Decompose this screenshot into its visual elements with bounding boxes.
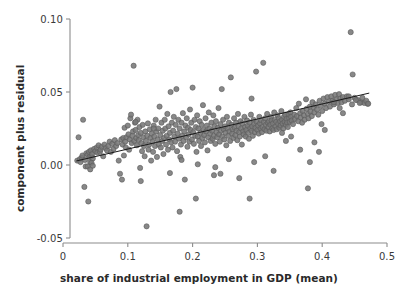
scatter-point <box>117 171 122 176</box>
scatter-point <box>138 178 143 183</box>
scatter-point <box>316 149 321 154</box>
scatter-point <box>249 96 254 101</box>
scatter-point <box>289 134 294 139</box>
scatter-point <box>180 111 185 116</box>
scatter-point <box>119 177 124 182</box>
scatter-point <box>290 122 295 127</box>
scatter-point <box>128 112 133 117</box>
scatter-point <box>298 147 303 152</box>
scatter-point <box>133 119 138 124</box>
scatter-point <box>235 111 240 116</box>
scatter-point <box>224 143 229 148</box>
scatter-point <box>187 107 192 112</box>
scatter-point <box>263 154 268 159</box>
scatter-point <box>174 149 179 154</box>
scatter-point <box>194 149 199 154</box>
scatter-point <box>237 176 242 181</box>
scatter-point <box>179 157 184 162</box>
scatter-point <box>239 142 244 147</box>
scatter-point <box>142 154 147 159</box>
scatter-point <box>248 112 253 117</box>
scatter-point <box>158 145 163 150</box>
scatter-point <box>219 86 224 91</box>
scatter-point <box>203 116 208 121</box>
scatter-point <box>211 113 216 118</box>
scatter-point <box>144 224 149 229</box>
scatter-point <box>121 153 126 158</box>
scatter-point <box>254 69 259 74</box>
scatter-point <box>177 126 182 131</box>
scatter-point <box>247 196 252 201</box>
scatter-point <box>205 148 210 153</box>
scatter-point <box>157 104 162 109</box>
scatter-point <box>349 102 354 107</box>
scatter-point <box>340 111 345 116</box>
scatter-plot-canvas <box>0 0 398 287</box>
y-tick-label: 0.10 <box>18 14 63 25</box>
scatter-point <box>319 122 324 127</box>
y-axis-title: component plus residual <box>14 65 26 212</box>
scatter-point <box>195 162 200 167</box>
scatter-point <box>195 113 200 118</box>
scatter-point <box>279 130 284 135</box>
x-axis-title: share of industrial employment in GDP (m… <box>0 272 398 284</box>
scatter-point <box>177 209 182 214</box>
scatter-point <box>228 75 233 80</box>
scatter-point <box>171 128 176 133</box>
scatter-point <box>82 184 87 189</box>
scatter-point <box>149 158 154 163</box>
scatter-point <box>337 105 342 110</box>
scatter-point <box>296 101 301 106</box>
scatter-point <box>150 149 155 154</box>
scatter-point <box>190 85 195 90</box>
scatter-point <box>184 116 189 121</box>
scatter-point <box>226 157 231 162</box>
scatter-point <box>76 135 81 140</box>
scatter-point <box>211 173 216 178</box>
scatter-point <box>154 154 159 159</box>
scatter-point <box>116 158 121 163</box>
scatter-point <box>162 117 167 122</box>
scatter-point <box>191 141 196 146</box>
component-plus-residual-plot: -0.050.000.050.10 00.10.20.30.40.5 compo… <box>0 0 398 287</box>
scatter-point <box>140 122 145 127</box>
x-tick-label: 0 <box>60 251 66 262</box>
scatter-point <box>224 114 229 119</box>
scatter-point <box>252 159 257 164</box>
y-tick-label: -0.05 <box>18 233 63 244</box>
scatter-point <box>271 168 276 173</box>
scatter-point <box>131 63 136 68</box>
scatter-point <box>151 126 156 131</box>
scatter-point <box>307 159 312 164</box>
scatter-point <box>138 165 143 170</box>
scatter-point <box>174 86 179 91</box>
scatter-point <box>182 177 187 182</box>
scatter-point <box>218 171 223 176</box>
scatter-point <box>200 103 205 108</box>
scatter-point <box>80 117 85 122</box>
scatter-point <box>283 138 288 143</box>
x-tick-label: 0.5 <box>379 251 395 262</box>
scatter-point <box>285 124 290 129</box>
scatter-point <box>312 140 317 145</box>
scatter-point <box>348 30 353 35</box>
scatter-point <box>125 123 130 128</box>
scatter-point <box>161 151 166 156</box>
scatter-point <box>216 105 221 110</box>
scatter-point <box>199 122 204 127</box>
scatter-point <box>167 170 172 175</box>
x-tick-label: 0.2 <box>184 251 200 262</box>
scatter-point <box>303 97 308 102</box>
scatter-point <box>357 100 362 105</box>
scatter-point <box>305 186 310 191</box>
scatter-point <box>206 110 211 115</box>
scatter-point <box>163 142 168 147</box>
scatter-point <box>202 140 207 145</box>
scatter-point <box>168 89 173 94</box>
scatter-point <box>165 111 170 116</box>
scatter-point <box>322 127 327 132</box>
scatter-point <box>171 114 176 119</box>
scatter-point <box>261 60 266 65</box>
scatter-point <box>86 199 91 204</box>
scatter-point <box>193 196 198 201</box>
